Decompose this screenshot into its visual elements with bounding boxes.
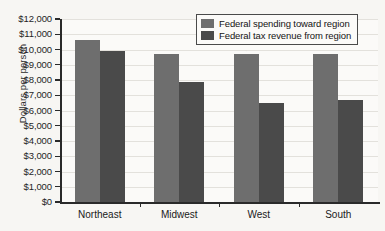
x-tick-mark [219,202,220,207]
x-tick-label: Midwest [140,209,220,220]
legend-label: Federal spending toward region [219,18,350,29]
bar [338,100,363,202]
x-tick-label: West [219,209,299,220]
y-tick-label: $9,000 [24,59,52,70]
legend-swatch-icon [201,19,214,28]
legend-item: Federal spending toward region [201,18,351,29]
y-tick-label: $3,000 [24,150,52,161]
bar [75,40,100,202]
y-tick-label: $1,000 [24,181,52,192]
y-tick-label: $10,000 [18,44,52,55]
bar [259,103,284,202]
y-tick-label: $2,000 [24,166,52,177]
y-tick-label: $8,000 [24,74,52,85]
bar [179,82,204,202]
legend-swatch-icon [201,31,214,40]
y-tick-label: $11,000 [19,28,52,39]
y-tick-label: $5,000 [24,120,52,131]
y-axis-line [60,19,62,203]
x-tick-mark [140,202,141,207]
bar [100,51,125,202]
bar [313,54,338,202]
bar [154,54,179,202]
y-tick-label: $6,000 [24,105,52,116]
y-tick-label: $0 [42,196,52,207]
legend-item: Federal tax revenue from region [201,30,351,41]
y-tick-label: $7,000 [24,89,52,100]
x-tick-label: Northeast [60,209,140,220]
y-tick-label: $4,000 [24,135,52,146]
y-tick-label: $12,000 [18,13,52,24]
x-tick-label: South [299,209,379,220]
bar-chart: Dollars per person $12,000$11,000$10,000… [0,0,385,231]
x-tick-mark [299,202,300,207]
bar [234,54,259,202]
legend-label: Federal tax revenue from region [219,30,351,41]
chart-legend: Federal spending toward region Federal t… [196,14,358,45]
